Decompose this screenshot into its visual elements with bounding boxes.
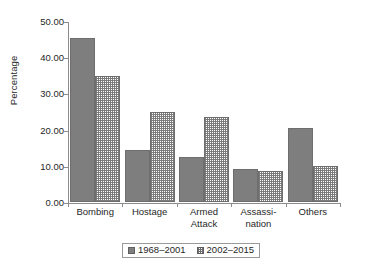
y-axis-tick-label: 30.00 [40,90,64,100]
y-axis-line [68,22,69,204]
bar [95,76,120,202]
y-axis-tick-label: 40.00 [40,53,64,63]
bar [288,128,313,202]
y-axis-tick-label: 0.00 [46,198,65,208]
y-axis-tick-label: 10.00 [40,162,64,172]
legend-swatch-icon [197,247,204,254]
bar [125,150,150,202]
y-axis-tick [64,58,68,59]
bar-chart: Percentage 0.0010.0020.0030.0040.0050.00… [0,0,366,274]
x-axis-category-label: Armed Attack [177,206,231,229]
y-axis-tick-label: 20.00 [40,126,64,136]
bar [313,166,338,202]
x-axis-category-label: Hostage [122,206,176,218]
plot-area [68,22,340,203]
x-axis-tick [340,203,341,207]
legend-swatch-icon [128,247,135,254]
y-axis-tick [64,131,68,132]
y-axis-tick-label: 50.00 [40,17,64,27]
legend-entry[interactable]: 2002–2015 [197,245,255,255]
x-axis-category-label: Bombing [68,206,122,218]
chart-legend: 1968–20012002–2015 [122,243,260,258]
bar [150,112,175,202]
legend-label: 1968–2001 [138,245,186,255]
legend-label: 2002–2015 [207,245,255,255]
x-axis-category-labels: BombingHostageArmed AttackAssassi- natio… [68,206,340,240]
bar [204,117,229,202]
y-axis-tick-labels: 0.0010.0020.0030.0040.0050.00 [0,22,64,203]
x-axis-category-label: Others [286,206,340,218]
y-axis-tick [64,94,68,95]
y-axis-tick [64,22,68,23]
bar [179,157,204,202]
y-axis-tick [64,167,68,168]
bar [70,38,95,202]
legend-entry[interactable]: 1968–2001 [128,245,186,255]
bar [233,169,258,202]
bar [258,171,283,202]
x-axis-category-label: Assassi- nation [231,206,285,229]
x-axis-line [68,203,340,204]
